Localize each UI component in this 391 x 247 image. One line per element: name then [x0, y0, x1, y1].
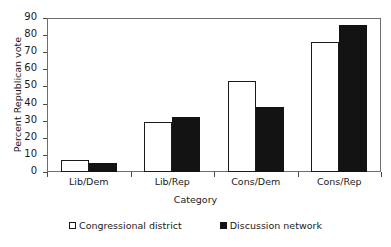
y-axis-tick-label: 60 [24, 62, 37, 73]
y-axis-tick-label: 90 [24, 11, 37, 22]
bar-chart-figure: Percent Republican vote 0102030405060708… [0, 0, 391, 247]
bar-cons-rep-discussion [339, 25, 367, 172]
bar-group [214, 18, 298, 172]
y-axis-tick-label: 30 [24, 114, 37, 125]
bar-group-bars [214, 18, 298, 172]
bar-lib-dem-discussion [89, 163, 117, 172]
x-axis-label-cons-dem: Cons/Dem [214, 176, 298, 187]
bar-cons-dem-congressional [228, 81, 256, 172]
bar-group [131, 18, 215, 172]
legend-item-discussion: Discussion network [220, 220, 322, 231]
y-axis-title: Percent Republican vote [12, 15, 23, 175]
y-axis-tick-label: 70 [24, 45, 37, 56]
bar-cons-dem-discussion [256, 107, 284, 172]
bar-group-bars [131, 18, 215, 172]
open-square-icon [69, 222, 76, 229]
x-axis-label-lib-dem: Lib/Dem [47, 176, 131, 187]
filled-square-icon [220, 222, 227, 229]
y-axis-tick-label: 20 [24, 131, 37, 142]
y-axis-tick-label: 0 [31, 165, 37, 176]
bar-lib-dem-congressional [61, 160, 89, 172]
x-axis-tick-mark [47, 172, 48, 177]
legend-item-congressional: Congressional district [69, 220, 182, 231]
legend-label: Discussion network [230, 220, 322, 231]
bar-cons-rep-congressional [311, 42, 339, 172]
x-axis-title: Category [0, 194, 391, 205]
x-axis-label-cons-rep: Cons/Rep [298, 176, 382, 187]
bar-group-bars [298, 18, 382, 172]
y-axis-tick-label: 80 [24, 28, 37, 39]
x-axis-tick-mark [381, 172, 382, 177]
y-axis-tick-label: 10 [24, 148, 37, 159]
bar-group [47, 18, 131, 172]
y-axis-tick-label: 50 [24, 79, 37, 90]
legend-label: Congressional district [79, 220, 182, 231]
y-axis-tick-label: 40 [24, 97, 37, 108]
bar-group-bars [47, 18, 131, 172]
chart-legend: Congressional districtDiscussion network [0, 220, 391, 231]
bar-lib-rep-congressional [144, 122, 172, 172]
bar-lib-rep-discussion [172, 117, 200, 172]
x-axis-label-lib-rep: Lib/Rep [131, 176, 215, 187]
bar-group [298, 18, 382, 172]
